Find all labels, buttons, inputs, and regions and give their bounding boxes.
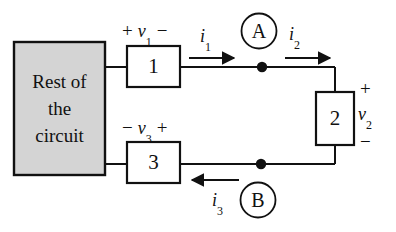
voltage-v3-label: − v3 + (122, 117, 167, 143)
voltage-v3-left-sign: − (122, 117, 133, 139)
node-dot-top (257, 62, 267, 72)
voltage-v1-label: + v1 − (122, 20, 167, 46)
voltage-v2-subscript: 2 (366, 118, 372, 132)
circuit-diagram-canvas: Rest of the circuit 1 3 2 A B + v1 − − v… (0, 0, 396, 232)
voltage-v3-symbol-text: v (138, 118, 146, 138)
node-dot-bottom (256, 159, 266, 169)
element-1-label: 1 (127, 46, 180, 87)
voltage-v1-right-sign: − (157, 20, 168, 42)
voltage-v1-symbol: v1 (138, 21, 152, 46)
voltage-v1-symbol-text: v (138, 21, 146, 41)
current-i3-subscript: 3 (217, 204, 223, 218)
meter-b-label: B (240, 182, 276, 218)
voltage-v3-subscript: 3 (146, 132, 152, 146)
voltage-v2-minus-sign: − (360, 132, 371, 151)
rest-of-circuit-line-3: circuit (35, 126, 84, 145)
voltage-v1-left-sign: + (122, 20, 133, 42)
voltage-v2-symbol: v2 (358, 105, 372, 127)
current-i2-label: i2 (289, 25, 300, 47)
current-i2-subscript: 2 (294, 38, 300, 52)
voltage-v2-symbol-text: v (358, 104, 366, 124)
voltage-v1-subscript: 1 (146, 35, 152, 49)
meter-a-label: A (241, 13, 277, 49)
current-i3-label: i3 (212, 191, 223, 213)
current-i1-subscript: 1 (205, 40, 211, 54)
rest-of-circuit-line-2: the (48, 99, 71, 118)
rest-of-circuit-label: Rest of the circuit (14, 42, 105, 175)
rest-of-circuit-line-1: Rest of (32, 72, 86, 91)
voltage-v2-plus-sign: + (360, 79, 371, 98)
voltage-v3-symbol: v3 (138, 118, 152, 143)
element-2-label: 2 (316, 92, 354, 145)
current-i1-label: i1 (200, 27, 211, 49)
voltage-v3-right-sign: + (157, 117, 168, 139)
element-3-label: 3 (127, 142, 180, 183)
